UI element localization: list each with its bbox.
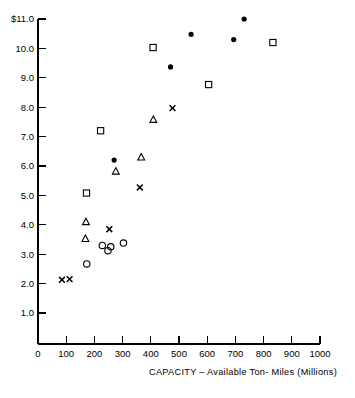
series-open-triangle: [82, 116, 157, 241]
point-open-triangle: [138, 154, 145, 160]
y-tick-label: 6.0: [21, 160, 34, 171]
point-x-mark: [59, 277, 65, 283]
x-tick-label: 200: [86, 348, 102, 359]
scatter-chart: 1.02.03.04.05.06.07.08.09.010.0$11.0 010…: [0, 0, 355, 398]
point-filled-circle: [112, 158, 117, 163]
y-tick-label: 10.0: [16, 43, 35, 54]
x-tick-label: 400: [143, 348, 159, 359]
y-axis-tick-labels: 1.02.03.04.05.06.07.08.09.010.0$11.0: [11, 13, 34, 318]
y-tick-label: 3.0: [21, 249, 34, 260]
x-tick-label: 800: [256, 348, 272, 359]
point-open-square: [206, 81, 212, 87]
point-x-mark: [137, 185, 143, 191]
point-filled-circle: [189, 32, 194, 37]
point-open-square: [83, 190, 89, 196]
series-open-circle: [84, 240, 127, 267]
tick-marks: [38, 19, 320, 344]
x-axis-tick-labels: 01002003004005006007008009001000: [35, 348, 330, 359]
point-open-circle: [84, 261, 90, 267]
x-tick-label: 300: [115, 348, 131, 359]
y-tick-label: 5.0: [21, 190, 34, 201]
axes: [38, 19, 320, 344]
x-axis-title: CAPACITY – Available Ton- Miles (Million…: [149, 367, 337, 377]
y-tick-label: 9.0: [21, 72, 34, 83]
point-x-mark: [67, 276, 73, 282]
point-filled-circle: [242, 16, 247, 21]
point-filled-circle: [168, 64, 173, 69]
y-tick-label: 7.0: [21, 131, 34, 142]
point-x-mark: [106, 226, 112, 232]
point-open-square: [270, 39, 276, 45]
point-x-mark: [170, 105, 176, 111]
x-tick-label: 700: [227, 348, 243, 359]
point-open-triangle: [150, 116, 157, 122]
x-tick-label: 500: [171, 348, 187, 359]
y-tick-label: 1.0: [21, 307, 34, 318]
x-tick-label: 0: [35, 348, 40, 359]
y-tick-label: 8.0: [21, 102, 34, 113]
x-tick-label: 600: [199, 348, 215, 359]
data-points: [59, 16, 276, 282]
x-tick-label: 900: [284, 348, 300, 359]
y-tick-label: 4.0: [21, 219, 34, 230]
point-open-circle: [99, 242, 105, 248]
plot-area: 1.02.03.04.05.06.07.08.09.010.0$11.0 010…: [0, 0, 355, 398]
y-tick-label: $11.0: [11, 13, 34, 24]
point-open-square: [150, 44, 156, 50]
x-tick-label: 100: [58, 348, 74, 359]
series-open-square: [83, 39, 276, 196]
point-open-triangle: [112, 168, 119, 174]
y-tick-label: 2.0: [21, 278, 34, 289]
x-tick-label: 1000: [309, 348, 330, 359]
point-open-triangle: [82, 235, 89, 241]
series-x-mark: [59, 105, 175, 282]
point-open-circle: [120, 240, 126, 246]
point-open-triangle: [83, 218, 90, 224]
series-filled-circle: [112, 16, 247, 162]
point-open-square: [98, 128, 104, 134]
point-filled-circle: [231, 37, 236, 42]
